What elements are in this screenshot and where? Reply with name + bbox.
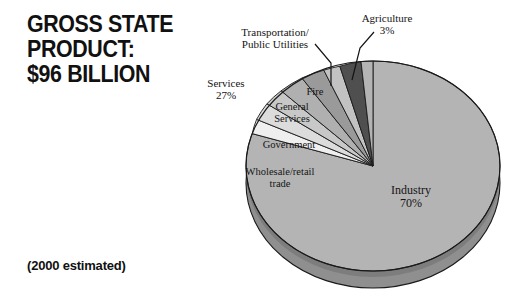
- label-general-services: General Services: [262, 101, 322, 125]
- label-government: Government: [247, 139, 331, 151]
- label-wholesale-retail-trade: Wholesale/retail trade: [233, 166, 327, 190]
- label-transportation-public-utilities: Transportation/ Public Utilities: [230, 26, 320, 51]
- label-services-name: Services: [207, 77, 244, 89]
- label-industry-name: Industry: [391, 183, 431, 197]
- label-industry: Industry 70%: [376, 184, 446, 211]
- label-transportation-line-2: Public Utilities: [242, 38, 308, 50]
- label-industry-percent: 70%: [376, 197, 446, 210]
- label-general-services-line-2: Services: [274, 113, 310, 124]
- label-services: Services 27%: [190, 77, 262, 102]
- label-general-services-line-1: General: [275, 101, 308, 112]
- label-transportation-line-1: Transportation/: [241, 26, 308, 38]
- label-agriculture-percent: 3%: [341, 24, 433, 36]
- label-fire: Fire: [295, 86, 335, 98]
- label-agriculture: Agriculture 3%: [341, 12, 433, 37]
- label-agriculture-name: Agriculture: [362, 12, 413, 24]
- label-wholesale-line-1: Wholesale/retail: [246, 166, 315, 177]
- label-wholesale-line-2: trade: [270, 178, 291, 189]
- pie-chart: Transportation/ Public Utilities Agricul…: [0, 0, 532, 297]
- chart-page: GROSS STATE PRODUCT: $96 BILLION (2000 e…: [0, 0, 532, 297]
- label-services-percent: 27%: [190, 89, 262, 101]
